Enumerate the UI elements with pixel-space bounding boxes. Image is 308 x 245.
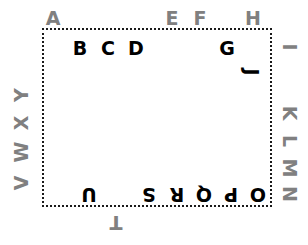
letter-label-v: V <box>12 176 31 191</box>
letter-label-s: S <box>142 185 156 204</box>
letter-label-l: L <box>280 135 299 147</box>
letter-label-e: E <box>166 9 179 28</box>
letter-label-i: I <box>280 43 299 50</box>
diagram-canvas: ABCDEFGHIJKLMNOPQRSTUVWXY <box>0 0 308 245</box>
letter-label-g: G <box>219 39 235 58</box>
letter-label-m: M <box>280 159 299 178</box>
letter-label-y: Y <box>12 88 31 102</box>
letter-label-n: N <box>280 186 299 202</box>
letter-label-a: A <box>46 9 61 28</box>
letter-label-w: W <box>12 142 31 163</box>
letter-label-h: H <box>245 9 261 28</box>
letter-label-f: F <box>194 9 207 28</box>
letter-label-j: J <box>242 68 261 75</box>
letter-label-p: P <box>224 185 238 204</box>
letter-label-t: T <box>110 213 123 232</box>
letter-label-d: D <box>128 39 144 58</box>
letter-label-c: C <box>101 39 115 58</box>
letter-label-u: U <box>81 185 96 204</box>
letter-label-o: O <box>250 185 266 204</box>
letter-label-b: B <box>73 39 87 58</box>
letter-label-q: Q <box>196 185 212 204</box>
letter-label-x: X <box>12 116 31 131</box>
letter-label-r: R <box>170 185 185 204</box>
letter-label-k: K <box>280 106 299 121</box>
